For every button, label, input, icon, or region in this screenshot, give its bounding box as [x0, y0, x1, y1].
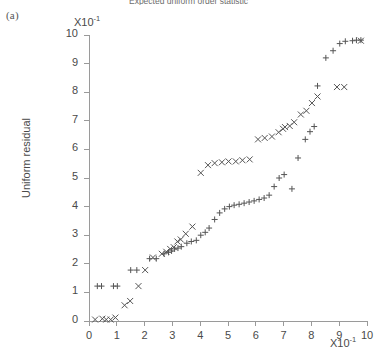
- cross-marker: [255, 136, 261, 142]
- plus-marker: [99, 283, 105, 289]
- cross-marker: [205, 162, 211, 168]
- plus-marker: [202, 229, 208, 235]
- cross-marker: [212, 160, 218, 166]
- cross-marker: [178, 236, 184, 242]
- plus-marker: [128, 267, 134, 273]
- plus-marker: [289, 186, 295, 192]
- plus-marker: [231, 202, 237, 208]
- plus-marker: [281, 172, 287, 178]
- plus-marker: [178, 244, 184, 250]
- plus-marker: [315, 83, 321, 89]
- series-cross-series: [92, 38, 364, 323]
- cross-marker: [142, 267, 148, 273]
- cross-marker: [92, 317, 98, 323]
- plus-marker: [217, 210, 223, 216]
- scatter-plot: [0, 0, 377, 354]
- cross-marker: [183, 231, 189, 237]
- cross-marker: [233, 158, 239, 164]
- plus-marker: [276, 175, 282, 181]
- cross-marker: [239, 157, 245, 163]
- plus-marker: [323, 55, 329, 61]
- plus-marker: [342, 38, 348, 44]
- cross-marker: [287, 123, 293, 129]
- plus-marker: [302, 136, 308, 142]
- plus-marker: [134, 267, 140, 273]
- plus-marker: [212, 216, 218, 222]
- plus-marker: [266, 192, 272, 198]
- plus-marker: [307, 129, 313, 135]
- cross-marker: [315, 93, 321, 99]
- cross-marker: [219, 159, 225, 165]
- plus-marker: [206, 225, 212, 231]
- cross-marker: [150, 255, 156, 261]
- cross-marker: [174, 238, 180, 244]
- figure-panel: Expected uniform order statistic (a) X10…: [0, 0, 377, 354]
- cross-marker: [198, 170, 204, 176]
- plus-marker: [251, 198, 257, 204]
- cross-marker: [127, 298, 133, 304]
- cross-marker: [189, 224, 195, 230]
- cross-marker: [247, 156, 253, 162]
- cross-marker: [341, 84, 347, 90]
- cross-marker: [122, 302, 128, 308]
- cross-marker: [334, 84, 340, 90]
- cross-marker: [276, 129, 282, 135]
- cross-marker: [269, 134, 275, 140]
- cross-marker: [262, 135, 268, 141]
- cross-marker: [298, 112, 304, 118]
- plus-marker: [330, 48, 336, 54]
- axes-group: [84, 35, 367, 326]
- cross-marker: [291, 119, 297, 125]
- cross-marker: [303, 108, 309, 114]
- cross-marker: [135, 283, 141, 289]
- plus-marker: [175, 245, 181, 251]
- cross-marker: [309, 100, 315, 106]
- plus-marker: [241, 200, 247, 206]
- plus-marker: [246, 199, 252, 205]
- plus-marker: [193, 237, 199, 243]
- plus-marker: [350, 38, 356, 44]
- plus-marker: [236, 201, 242, 207]
- plus-marker: [114, 283, 120, 289]
- plus-marker: [198, 232, 204, 238]
- plus-marker: [295, 155, 301, 161]
- plus-marker: [271, 184, 277, 190]
- plus-marker: [337, 41, 343, 47]
- plus-marker: [311, 124, 317, 130]
- plus-marker: [261, 195, 267, 201]
- plus-marker: [256, 196, 262, 202]
- data-points-group: [92, 37, 364, 322]
- series-plus-series: [94, 37, 364, 289]
- cross-marker: [226, 158, 232, 164]
